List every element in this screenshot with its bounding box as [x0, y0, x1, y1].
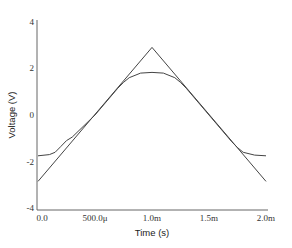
clipped-series-line — [38, 72, 266, 155]
x-tick-label: 1.0m — [143, 213, 161, 223]
series-lines — [38, 47, 266, 181]
y-tick-label: 4 — [30, 17, 35, 27]
y-axis-label: Voltage (V) — [6, 92, 17, 139]
y-tick-labels: 420-2-4 — [27, 17, 35, 213]
y-tick-label: 0 — [30, 110, 35, 120]
y-tick-label: 2 — [30, 63, 35, 73]
x-tick-label: 0.0 — [36, 213, 48, 223]
x-tick-label: 2.0m — [257, 213, 275, 223]
x-tick-labels: 0.0500.0μ1.0m1.5m2.0m — [36, 213, 275, 223]
voltage-chart: 420-2-4 0.0500.0μ1.0m1.5m2.0m Time (s) V… — [0, 0, 292, 248]
x-axis-label: Time (s) — [135, 227, 169, 238]
x-tick-label: 1.5m — [200, 213, 218, 223]
triangle-series-line — [38, 47, 266, 181]
x-tick-label: 500.0μ — [82, 213, 107, 223]
y-tick-label: -4 — [27, 203, 35, 213]
y-tick-label: -2 — [27, 157, 35, 167]
